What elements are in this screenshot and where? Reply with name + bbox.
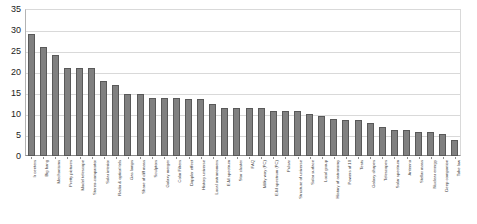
y-tick-label: 25 — [11, 47, 21, 56]
x-axis-label: Structure of universe — [299, 160, 303, 199]
bar — [258, 108, 265, 156]
bar — [52, 55, 59, 156]
bar — [403, 130, 410, 156]
bar-chart: 05101520253035 Ir centersBig bangMechani… — [0, 0, 477, 224]
y-tick-label: 0 — [16, 152, 21, 161]
x-axis-label: Tests — [360, 160, 364, 170]
x-axis-label: FAQ — [251, 160, 255, 168]
y-tick-label: 15 — [11, 89, 21, 98]
x-axis-label: History universe — [202, 160, 206, 190]
x-tick — [92, 157, 93, 159]
x-axis-label: Doppler effect — [190, 160, 194, 186]
x-tick — [237, 157, 238, 159]
x-tick — [419, 157, 420, 159]
x-tick — [67, 157, 68, 159]
x-tick — [104, 157, 105, 159]
x-axis-label: Ir centers — [33, 160, 37, 177]
bar — [100, 81, 107, 156]
x-tick — [176, 157, 177, 159]
x-axis-label: Radio & optical tels — [118, 160, 122, 196]
bar — [391, 130, 398, 156]
bar — [367, 123, 374, 156]
y-tick-label: 10 — [11, 110, 21, 119]
x-tick — [322, 157, 323, 159]
y-tick-label: 30 — [11, 26, 21, 35]
x-axis-label: Deep companion — [445, 160, 449, 192]
x-axis-label: Milky way (PC) — [263, 160, 267, 188]
x-axis-label: Local astronomers — [215, 160, 219, 194]
x-tick — [358, 157, 359, 159]
bar — [379, 127, 386, 156]
x-axis-label: Pulsar — [287, 160, 291, 172]
x-tick — [431, 157, 432, 159]
x-tick — [116, 157, 117, 159]
bar — [355, 120, 362, 156]
x-tick — [249, 157, 250, 159]
bar — [233, 108, 240, 156]
bar — [124, 94, 131, 156]
bar — [173, 98, 180, 156]
x-tick — [346, 157, 347, 159]
bar — [294, 111, 301, 156]
x-axis-label: Powers of 10 — [348, 160, 352, 184]
bar — [209, 104, 216, 157]
bar — [197, 99, 204, 156]
x-tick — [140, 157, 141, 159]
x-axis-label: E-M spectrum (PC) — [275, 160, 279, 196]
x-axis-label: Nuclear energy — [433, 160, 437, 188]
x-axis-labels: Ir centersBig bangMechanismsPretty pictu… — [25, 157, 461, 224]
x-axis-label: Telescopes — [384, 160, 388, 181]
x-axis-label: Model telescope — [81, 160, 85, 191]
x-axis-label: Pretty pictures — [69, 160, 73, 187]
bar — [64, 68, 71, 156]
x-tick — [285, 157, 286, 159]
x-axis-label: History of astronomy — [336, 160, 340, 198]
x-axis-label: Sculptors — [154, 160, 158, 177]
y-tick-label: 20 — [11, 68, 21, 77]
bar — [318, 116, 325, 156]
bar — [330, 119, 337, 156]
x-tick — [455, 157, 456, 159]
x-tick — [382, 157, 383, 159]
bar — [185, 99, 192, 156]
bar — [76, 68, 83, 156]
x-axis-label: Solar surface — [311, 160, 315, 185]
bar — [221, 108, 228, 156]
x-axis-label: Solar interior — [106, 160, 110, 184]
x-tick — [370, 157, 371, 159]
x-axis-label: Stereo-comparator — [93, 160, 97, 195]
bar — [342, 120, 349, 156]
x-tick — [128, 157, 129, 159]
x-tick — [213, 157, 214, 159]
x-axis-label: Take law — [457, 160, 461, 176]
x-axis-label: Local group — [324, 160, 328, 182]
bar — [246, 108, 253, 156]
bar — [451, 140, 458, 156]
x-tick — [225, 157, 226, 159]
y-tick-label: 5 — [16, 131, 21, 140]
x-axis-label: Gas lamps — [130, 160, 134, 180]
x-axis-label: Antenna — [408, 160, 412, 176]
x-axis-label: Color Filters — [178, 160, 182, 183]
bar — [415, 132, 422, 156]
bar — [270, 111, 277, 156]
bar — [439, 134, 446, 156]
x-axis-label: E-M spectrum — [227, 160, 231, 186]
x-tick — [201, 157, 202, 159]
x-tick — [261, 157, 262, 159]
bar — [112, 85, 119, 156]
bar — [88, 68, 95, 156]
x-tick — [273, 157, 274, 159]
x-tick — [164, 157, 165, 159]
x-axis-label: Galaxy merger — [166, 160, 170, 187]
x-axis-label: Share of diff mass — [142, 160, 146, 194]
x-axis-label: Galaxy shapes — [372, 160, 376, 188]
x-tick — [394, 157, 395, 159]
bar — [427, 132, 434, 156]
x-axis-label: Stellar mass — [420, 160, 424, 183]
x-tick — [31, 157, 32, 159]
x-tick — [334, 157, 335, 159]
y-axis: 05101520253035 — [0, 0, 25, 165]
bar — [149, 98, 156, 156]
x-axis-label: Solar spectrum — [396, 160, 400, 188]
